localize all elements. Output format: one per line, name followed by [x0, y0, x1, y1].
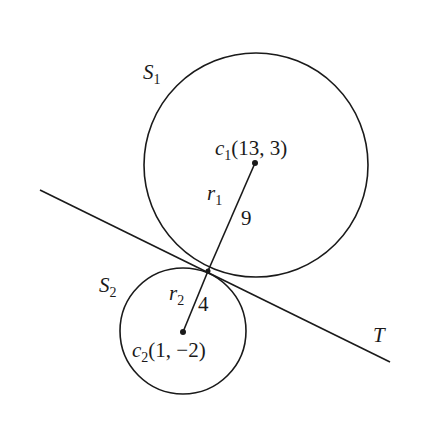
label-center-c1: c1(13, 3)	[215, 136, 287, 163]
center-point-c1	[252, 160, 258, 166]
tangency-point	[206, 269, 211, 274]
tangent-circles-diagram: S1 c1(13, 3) r1 9 S2 r2 4 c2(1, −2) T	[0, 0, 423, 422]
label-radius-value-9: 9	[241, 206, 252, 230]
label-center-c2: c2(1, −2)	[132, 338, 206, 365]
label-radius-r1: r1	[207, 181, 222, 208]
center-point-c2	[180, 329, 186, 335]
label-tangent-t: T	[373, 323, 386, 347]
label-s2: S2	[99, 273, 117, 300]
label-radius-r2: r2	[169, 281, 184, 308]
label-s1: S1	[143, 60, 161, 87]
label-radius-value-4: 4	[198, 292, 209, 316]
